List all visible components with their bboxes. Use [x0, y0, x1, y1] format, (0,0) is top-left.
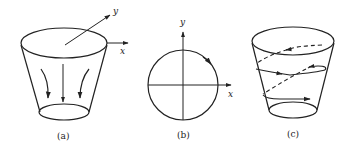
y-axis-label: y: [179, 17, 186, 27]
caption-a: (a): [57, 131, 69, 141]
helix-back-lower: [263, 69, 306, 94]
right-side: [317, 43, 334, 110]
bottom-ellipse: [39, 104, 89, 120]
panel-c: (c): [252, 27, 334, 139]
caption-b: (b): [177, 130, 190, 140]
helix-front-middle: [256, 69, 325, 75]
figure: y x (a) y x (b) (c): [0, 0, 355, 152]
panel-b: y x (b): [148, 17, 233, 140]
bottom-ellipse: [269, 102, 317, 118]
x-axis-label: x: [120, 46, 125, 56]
left-side: [252, 43, 269, 110]
caption-c: (c): [287, 129, 299, 139]
x-axis-label: x: [228, 89, 233, 99]
right-curved-arrow-icon: [80, 69, 89, 98]
top-ellipse: [252, 27, 334, 55]
helix-front-lower: [263, 95, 310, 99]
panel-a: y x (a): [21, 6, 128, 141]
y-axis-label: y: [112, 6, 119, 16]
rotation-arrow-icon: [203, 57, 211, 64]
y-axis-arrow-icon: [65, 15, 110, 45]
top-ellipse: [21, 28, 107, 58]
left-curved-arrow-icon: [41, 69, 48, 98]
